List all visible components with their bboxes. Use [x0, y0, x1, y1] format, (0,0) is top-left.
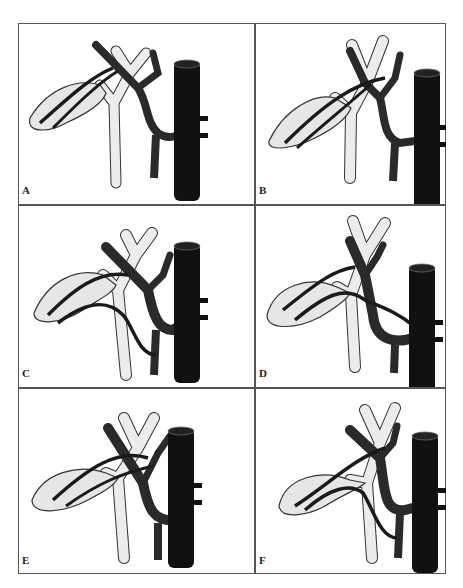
panel-label-a: A	[22, 184, 30, 196]
panel-b: B	[255, 23, 446, 204]
panel-label-e: E	[22, 554, 29, 566]
panel-c: C	[18, 205, 254, 387]
panel-d: D	[255, 205, 446, 387]
anatomy-diagram-d	[255, 205, 446, 387]
panel-label-c: C	[22, 367, 30, 379]
panel-a: A	[18, 23, 254, 204]
panel-label-d: D	[259, 367, 267, 379]
anatomy-diagram-e	[18, 388, 254, 574]
anatomy-diagram-a	[18, 23, 254, 204]
panel-f: F	[255, 388, 446, 574]
anatomy-diagram-c	[18, 205, 254, 387]
anatomy-diagram-f	[255, 388, 446, 574]
panel-label-f: F	[259, 554, 266, 566]
panel-label-b: B	[259, 184, 266, 196]
panel-e: E	[18, 388, 254, 574]
anatomy-diagram-b	[255, 23, 446, 204]
